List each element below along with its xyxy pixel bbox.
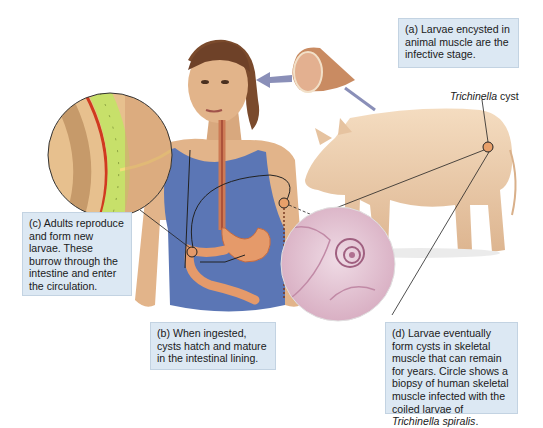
arrow-from-pig: [345, 88, 375, 110]
caption-d-end: .: [475, 415, 478, 427]
cyst-label-genus: Trichinella: [450, 90, 497, 102]
cyst-label-word: cyst: [497, 90, 519, 102]
caption-c: (c) Adults reproduce and form new larvae…: [22, 212, 132, 296]
caption-d-species: Trichinella spiralis: [392, 415, 475, 427]
cyst-marker: [483, 142, 493, 152]
caption-b: (b) When ingested, cysts hatch and matur…: [150, 322, 276, 370]
caption-d-text: (d) Larvae eventually form cysts in skel…: [392, 327, 509, 415]
infected-meat: [292, 48, 355, 93]
caption-a: (a) Larvae encysted in animal muscle are…: [398, 18, 519, 68]
trichinella-lifecycle-figure: (a) Larvae encysted in animal muscle are…: [0, 0, 543, 428]
caption-d: (d) Larvae eventually form cysts in skel…: [385, 322, 518, 414]
cyst-label: Trichinella cyst: [450, 90, 519, 102]
arrow-to-woman: [256, 72, 292, 88]
